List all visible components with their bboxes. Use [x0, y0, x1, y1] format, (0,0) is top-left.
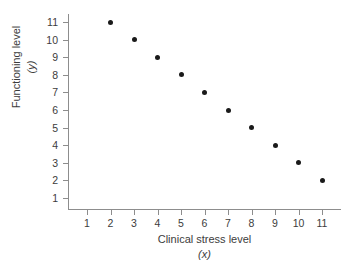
x-axis-tick — [275, 210, 276, 215]
data-point — [132, 37, 137, 42]
y-axis-tick — [63, 163, 68, 164]
x-axis-tick-label: 1 — [84, 217, 90, 229]
data-point — [249, 125, 254, 130]
x-axis-title-text: Clinical stress level — [68, 232, 341, 247]
x-axis-tick — [322, 210, 323, 215]
x-axis-tick — [134, 210, 135, 215]
data-point — [155, 55, 160, 60]
x-axis-title: Clinical stress level (x) — [68, 232, 341, 262]
x-axis-title-variable: (x) — [68, 247, 341, 262]
x-axis-tick — [299, 210, 300, 215]
y-axis-line — [68, 14, 69, 210]
y-axis-tick — [63, 75, 68, 76]
x-axis-tick-label: 2 — [108, 217, 114, 229]
y-axis-tick — [63, 57, 68, 58]
x-axis-tick — [111, 210, 112, 215]
x-axis-tick-label: 7 — [225, 217, 231, 229]
data-point — [202, 90, 207, 95]
y-axis-title-text: Functioning level — [9, 0, 24, 162]
data-point — [320, 178, 325, 183]
x-axis-tick-label: 3 — [131, 217, 137, 229]
y-axis-tick-label: 1 — [0, 192, 58, 204]
x-axis-tick-label: 4 — [155, 217, 161, 229]
y-axis-tick — [63, 145, 68, 146]
x-axis-tick — [205, 210, 206, 215]
scatter-plot-figure: 1234567891011 1234567891011 Clinical str… — [0, 0, 356, 266]
y-axis-title: Functioning level (y) — [9, 0, 39, 162]
data-point — [179, 72, 184, 77]
data-point — [226, 108, 231, 113]
y-axis-tick — [63, 110, 68, 111]
y-axis-tick — [63, 180, 68, 181]
y-axis-title-variable: (y) — [24, 0, 39, 162]
x-axis-tick — [228, 210, 229, 215]
x-axis-tick-label: 9 — [272, 217, 278, 229]
data-point — [296, 160, 301, 165]
y-axis-tick — [63, 128, 68, 129]
x-axis-tick — [252, 210, 253, 215]
x-axis-tick — [181, 210, 182, 215]
x-axis-tick — [158, 210, 159, 215]
y-axis-tick — [63, 22, 68, 23]
data-point — [108, 20, 113, 25]
data-point — [273, 143, 278, 148]
x-axis-tick-label: 5 — [178, 217, 184, 229]
x-axis-tick-label: 10 — [293, 217, 305, 229]
x-axis-tick — [87, 210, 88, 215]
y-axis-tick — [63, 40, 68, 41]
y-axis-tick-label: 2 — [0, 174, 58, 186]
y-axis-tick — [63, 198, 68, 199]
y-axis-tick — [63, 92, 68, 93]
x-axis-tick-label: 6 — [202, 217, 208, 229]
x-axis-tick-label: 8 — [249, 217, 255, 229]
x-axis-tick-label: 11 — [317, 217, 328, 229]
